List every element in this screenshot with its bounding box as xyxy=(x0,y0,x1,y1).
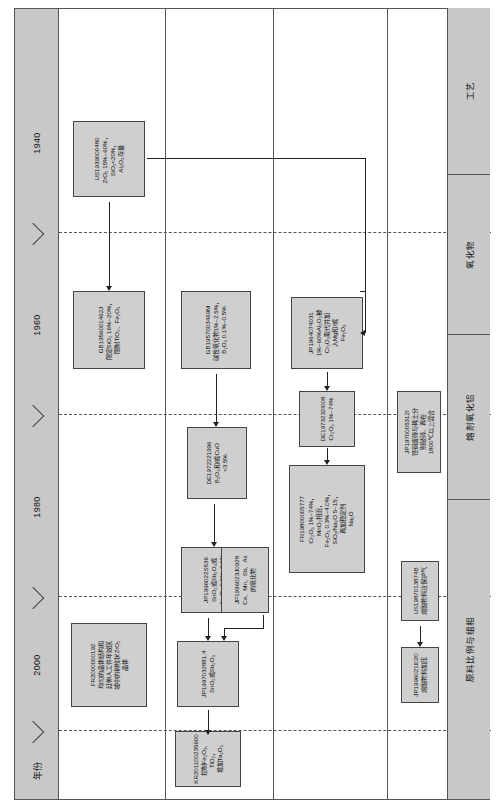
node-pid: GB1957003469M xyxy=(204,306,212,355)
lane-separator-3 xyxy=(387,9,388,799)
node-desc: Ce、Mn、Sb、As 的氧化物 xyxy=(241,555,257,604)
connector-arrow-oxide-2 xyxy=(324,460,330,465)
node-pid: JP1996022S536 xyxy=(202,557,210,603)
patent-roadmap-chart: 年份 2000 1980 1960 1940 原料比例与组相 熔剂氧化铝 氧化物… xyxy=(14,8,490,800)
node-desc: ZrO₂ 15%~60%， SiO₂<20%， Al₂O₃存量 xyxy=(101,134,126,183)
lane-label-raw-material: 原料比例与组相 xyxy=(447,499,490,799)
decade-line-1940 xyxy=(59,232,491,233)
node-gb1956001462j[interactable]: GB1956001462J 限定SiO₂ 16%~20%， 限制TiO₂、Fe₂… xyxy=(73,291,145,369)
lane-label-process: 工艺 xyxy=(447,8,490,174)
node-jp1996023j0928[interactable]: JP1996023J0928 Ce、Mn、Sb、As 的氧化物 xyxy=(221,547,269,613)
connector-flux-2 xyxy=(214,504,215,542)
lane-separator-2 xyxy=(273,9,274,799)
connector-arrow-flux-5 xyxy=(205,730,211,735)
connector-oxide-3h2 xyxy=(365,291,366,333)
axis-tick-1960: 1960 xyxy=(15,245,59,405)
connector-arrow-process-1 xyxy=(417,642,423,647)
node-kr201100235600[interactable]: KR201100235600 控制Fe₂O₃、TiO₂， 增加Ta₂O₅ xyxy=(175,731,241,787)
connector-oxide-2 xyxy=(327,448,328,460)
node-desc: 限定SiO₂ 16%~20%， 限制TiO₂、Fe₂O₃ xyxy=(105,300,121,361)
node-desc: 熔融物料注保护气 xyxy=(420,567,428,615)
lane-separator-1 xyxy=(165,9,166,799)
node-pid: DE1972221996 xyxy=(205,442,213,485)
axis-tick-1940: 1940 xyxy=(15,63,59,223)
connector-flux-1 xyxy=(216,374,217,422)
axis-tick-1980: 1980 xyxy=(15,427,59,587)
node-desc: 锆钢废砖与稀土分 别破碎、再在 1800℃以上混合 xyxy=(411,408,436,456)
connector-flux-5 xyxy=(208,710,209,730)
node-us1987013874b[interactable]: US1987013874B 熔融物料注保护气 xyxy=(401,561,439,621)
axis-chevron-3 xyxy=(15,405,59,427)
connector-oxide-3h xyxy=(365,158,366,292)
node-gb1957003469m[interactable]: GB1957003469M 碱性氧化物1%~2.5%， B₂O₃ 0.1%~0.… xyxy=(181,291,251,369)
timeline-axis-band: 年份 2000 1980 1960 1940 xyxy=(15,9,59,799)
connector-flux-4b xyxy=(224,628,264,629)
diagram-stage: 年份 2000 1980 1960 1940 原料比例与组相 熔剂氧化铝 氧化物… xyxy=(0,0,502,808)
node-de1973232i008[interactable]: DE1973232I008 Cr₂O₃ 1%~74% xyxy=(299,391,355,447)
node-pid: JP1996021I020 xyxy=(412,653,420,696)
node-pid: US1939000480 xyxy=(93,138,101,181)
node-desc: Cr₂O₃ 1%~74% xyxy=(327,398,335,441)
node-desc: 熔融物料加压 xyxy=(420,657,428,693)
connector-flux-3 xyxy=(208,618,209,636)
node-desc: SnO₂或Sb₂O₃ xyxy=(208,655,216,693)
node-pid: KR201100235600 xyxy=(192,734,200,783)
node-fr2000000192[interactable]: FR2000000192 均匀的晶体结构和 延伸人工件年效区 域中的树枝状ZrO… xyxy=(71,623,147,707)
decade-line-2000 xyxy=(59,730,491,731)
node-pid: GB1956001462J xyxy=(97,307,105,353)
node-pid: JP1970005312I xyxy=(403,410,411,453)
node-jp1970005312i[interactable]: JP1970005312I 锆钢废砖与稀土分 别破碎、再在 1800℃以上混合 xyxy=(397,391,441,473)
node-desc: 控制Fe₂O₃、TiO₂， 增加Ta₂O₅ xyxy=(200,735,225,783)
node-pid: FR19800005777 xyxy=(298,496,306,542)
axis-chevron-1 xyxy=(15,721,59,743)
axis-tick-2000: 2000 xyxy=(15,609,59,721)
node-desc: B₂O₃和/或CuO <3.5% xyxy=(213,443,229,483)
node-desc: 1%~60%Al₂O₃被 Cr₂O₃取代并加 入Mg和/或 Fe₂O₃ xyxy=(315,310,348,356)
node-fr19800005777[interactable]: FR19800005777 Cr₂O₃ 1%~74%， MnO₂相近， Fe₂O… xyxy=(289,465,365,573)
connector-flux-4c xyxy=(224,628,225,636)
connector-process-1 xyxy=(420,626,421,642)
node-jp1964074031[interactable]: JP1964074031 1%~60%Al₂O₃被 Cr₂O₃取代并加 入Mg和… xyxy=(291,297,363,369)
connector-flux-4a xyxy=(263,615,264,629)
node-de1972221996[interactable]: DE1972221996 B₂O₃和/或CuO <3.5% xyxy=(187,427,247,499)
connector-arrow-oxide-1 xyxy=(324,386,330,391)
connector-oxide-1 xyxy=(327,372,328,386)
lane-label-flux: 熔剂氧化铝 xyxy=(447,334,490,499)
connector-oxide-3v xyxy=(147,158,365,159)
node-desc: Cr₂O₃ 1%~74%， MnO₂相近， Fe₂O₃ 0.3%~4.0%， S… xyxy=(307,491,356,548)
axis-chevron-2 xyxy=(15,587,59,609)
axis-header-label: 年份 xyxy=(15,743,59,799)
lane-label-oxide: 氧化物 xyxy=(447,174,490,334)
node-pid: US1987013874B xyxy=(412,567,420,614)
node-pid: DE1973232I008 xyxy=(319,397,327,442)
connector-arrow-flux-2 xyxy=(211,542,217,547)
node-desc: 均匀的晶体结构和 延伸人工件年效区 域中的树枝状ZrO₂ 晶体 xyxy=(97,640,130,689)
node-jp1997032881-4[interactable]: JP1997032881.4 SnO₂或Sb₂O₃ xyxy=(177,641,239,707)
connector-arrow-flux-4 xyxy=(221,636,227,641)
node-pid: JP1996023J0928 xyxy=(233,556,241,604)
connector-arrow-raw-1 xyxy=(106,286,112,291)
node-pid: JP1997032881.4 xyxy=(200,651,208,698)
node-jp1996021i020[interactable]: JP1996021I020 熔融物料加压 xyxy=(401,647,439,703)
node-pid: FR2000000192 xyxy=(89,644,97,687)
connector-arrow-flux-1 xyxy=(213,422,219,427)
connector-arrow-flux-3 xyxy=(205,636,211,641)
node-desc: 碱性氧化物1%~2.5%， B₂O₃ 0.1%~0.5% xyxy=(212,299,228,362)
node-pid: JP1964074031 xyxy=(307,312,315,354)
axis-chevron-4 xyxy=(15,223,59,245)
node-us1939000480[interactable]: US1939000480 ZrO₂ 15%~60%， SiO₂<20%， Al₂… xyxy=(73,121,145,197)
connector-raw-1 xyxy=(109,202,110,286)
